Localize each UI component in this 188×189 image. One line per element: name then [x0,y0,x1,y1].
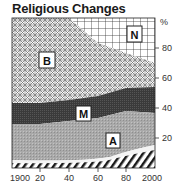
area-chart: B N M A % 80 60 40 20 1900 20 40 60 80 2… [0,0,188,189]
svg-text:20: 20 [35,173,45,183]
x-axis: 1900 20 40 60 80 2000 [10,168,162,183]
svg-text:20: 20 [162,133,172,143]
label-a: A [106,133,120,148]
svg-text:80: 80 [121,173,131,183]
svg-text:60: 60 [93,173,103,183]
label-m: M [76,106,91,121]
svg-text:40: 40 [162,103,172,113]
label-n: N [127,26,142,42]
svg-text:1900: 1900 [10,173,30,183]
svg-text:60: 60 [162,73,172,83]
svg-text:A: A [109,135,117,147]
svg-text:M: M [79,108,88,120]
svg-text:40: 40 [64,173,74,183]
label-b: B [39,52,55,68]
y-unit-label: % [160,17,168,27]
svg-text:2000: 2000 [142,173,162,183]
svg-text:80: 80 [162,43,172,53]
y-axis: % 80 60 40 20 [155,17,172,143]
svg-text:B: B [43,55,51,67]
svg-text:N: N [131,29,139,41]
